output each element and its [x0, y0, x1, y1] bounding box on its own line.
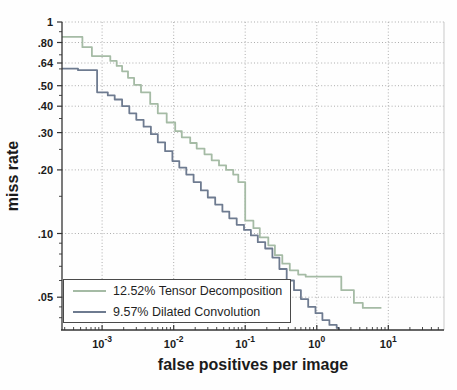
svg-text:10-2: 10-2	[164, 334, 184, 350]
legend-label: 9.57% Dilated Convolution	[113, 305, 260, 319]
svg-text:10-1: 10-1	[235, 334, 255, 350]
roc-plot-canvas: 1.80.64.50.40.30.20.10.0510-310-210-1100…	[0, 0, 457, 390]
legend-item-tensor-decomposition: 12.52% Tensor Decomposition	[64, 282, 290, 300]
curve-12-52-tensor-decomposition	[62, 37, 381, 308]
legend-box: 12.52% Tensor Decomposition 9.57% Dilate…	[63, 279, 291, 323]
roc-figure: 1.80.64.50.40.30.20.10.0510-310-210-1100…	[0, 0, 457, 390]
svg-text:.05: .05	[38, 291, 53, 303]
svg-text:.64: .64	[38, 57, 54, 69]
legend-item-dilated-convolution: 9.57% Dilated Convolution	[64, 303, 290, 321]
svg-text:.50: .50	[38, 80, 53, 92]
svg-text:101: 101	[380, 334, 397, 350]
svg-text:1: 1	[47, 16, 53, 28]
svg-text:.40: .40	[38, 100, 53, 112]
svg-text:.10: .10	[38, 228, 53, 240]
legend-label: 12.52% Tensor Decomposition	[113, 284, 282, 298]
svg-text:10-3: 10-3	[92, 334, 112, 350]
x-axis-label: false positives per image	[62, 356, 444, 374]
tensor-decomposition-line-sample	[73, 290, 106, 292]
y-axis-label: miss rate	[4, 116, 22, 236]
svg-text:.80: .80	[38, 37, 53, 49]
svg-text:.20: .20	[38, 164, 53, 176]
svg-text:.30: .30	[38, 127, 53, 139]
dilated-convolution-line-sample	[73, 311, 106, 313]
svg-text:100: 100	[308, 334, 325, 350]
